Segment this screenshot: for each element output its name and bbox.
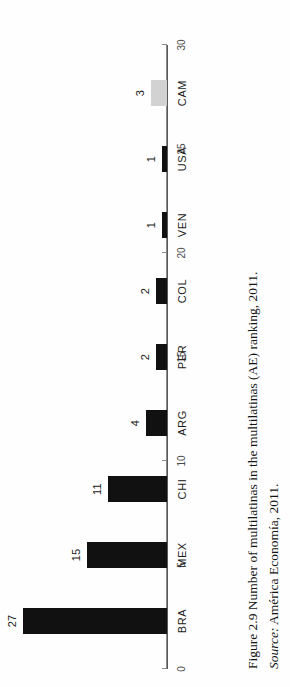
bar [151, 80, 167, 106]
bar-value-label: 27 [7, 603, 18, 639]
bar [23, 608, 167, 634]
category-label: COL [176, 267, 188, 315]
bar [156, 344, 167, 370]
figure-caption: Figure 2.9 Number of multilatinas in the… [243, 29, 283, 669]
bar [162, 212, 167, 238]
category-label: ARG [176, 399, 188, 447]
bar [87, 542, 167, 568]
bar-value-label: 1 [146, 141, 157, 177]
category-label: MEX [176, 531, 188, 579]
bar [108, 476, 167, 502]
bar-group: 1USA [7, 141, 167, 177]
plot-area: 27BRA15MEX11CHI4ARG2PER2COL1VEN1USA3CAM [7, 45, 167, 669]
bar-group: 15MEX [7, 537, 167, 573]
bar-value-label: 4 [130, 405, 141, 441]
bar-value-label: 1 [146, 207, 157, 243]
bar-group: 1VEN [7, 207, 167, 243]
bar-group: 2PER [7, 339, 167, 375]
source-label: Source: [266, 628, 281, 669]
bar [156, 278, 167, 304]
bar-value-label: 15 [71, 537, 82, 573]
bar-group: 2COL [7, 273, 167, 309]
bar [146, 410, 167, 436]
bar-value-label: 3 [135, 75, 146, 111]
figure-page: 051015202530 27BRA15MEX11CHI4ARG2PER2COL… [0, 0, 290, 687]
bar-value-label: 11 [92, 471, 103, 507]
category-label: CAM [176, 69, 188, 117]
bar-chart: 051015202530 27BRA15MEX11CHI4ARG2PER2COL… [0, 0, 232, 687]
caption-main-text: Figure 2.9 Number of multilatinas in the… [245, 272, 260, 669]
bar-group: 3CAM [7, 75, 167, 111]
caption-source-line: Source: América Economía, 2011. [264, 29, 283, 669]
rotated-figure-container: 051015202530 27BRA15MEX11CHI4ARG2PER2COL… [0, 0, 290, 687]
bar-group: 4ARG [7, 405, 167, 441]
bar [162, 146, 167, 172]
category-axis-line [167, 45, 168, 669]
bar-value-label: 2 [140, 339, 151, 375]
bar-value-label: 2 [140, 273, 151, 309]
category-label: USA [176, 135, 188, 183]
bar-group: 27BRA [7, 603, 167, 639]
category-label: BRA [176, 597, 188, 645]
axis-tick-label: 0 [177, 654, 187, 684]
category-label: CHI [176, 465, 188, 513]
category-label: PER [176, 333, 188, 381]
bar-group: 11CHI [7, 471, 167, 507]
axis-tick-label: 30 [177, 30, 187, 60]
source-text: América Economía, 2011. [266, 484, 281, 625]
category-label: VEN [176, 201, 188, 249]
